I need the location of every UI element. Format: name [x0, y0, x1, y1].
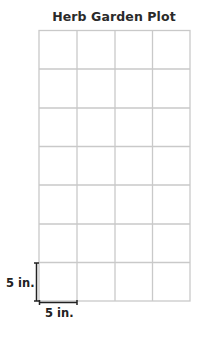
width-dimension-label: 5 in.	[45, 306, 74, 320]
height-dimension-label: 5 in.	[6, 276, 35, 290]
dimension-markers	[34, 263, 77, 305]
